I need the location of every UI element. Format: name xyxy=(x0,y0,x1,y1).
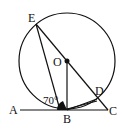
angle-marker xyxy=(57,101,67,110)
angle-label: 70° xyxy=(43,94,58,106)
label-c: C xyxy=(109,104,117,118)
label-b: B xyxy=(63,112,71,124)
center-point-o xyxy=(65,59,70,64)
label-a: A xyxy=(9,103,18,117)
label-d: D xyxy=(95,84,104,98)
label-e: E xyxy=(28,11,35,25)
chord-bd-2 xyxy=(67,101,97,109)
geometry-diagram: E O D A B C 70° xyxy=(0,0,121,124)
label-o: O xyxy=(53,55,62,69)
